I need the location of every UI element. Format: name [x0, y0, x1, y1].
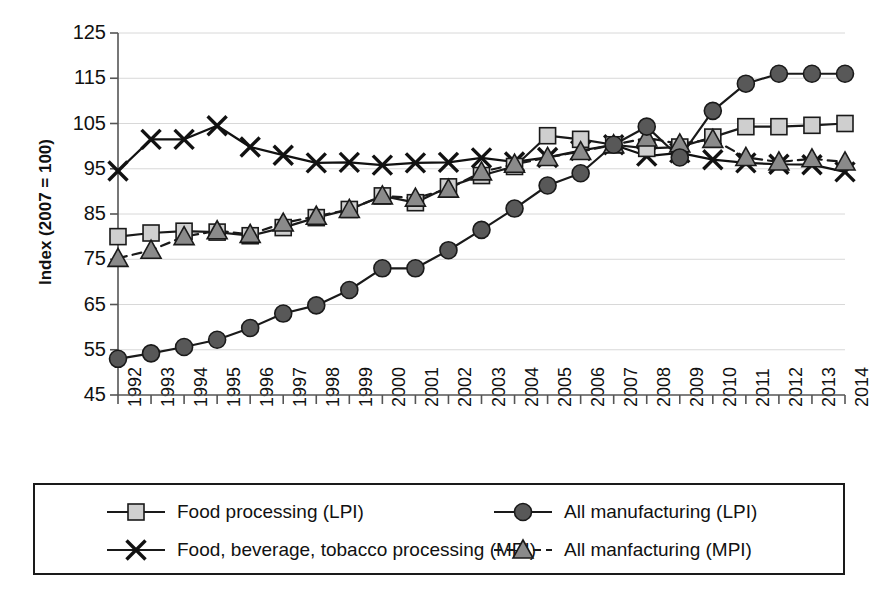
marker-square: [128, 504, 144, 520]
marker-triangle: [835, 152, 855, 170]
chart-legend: Food processing (LPI) Food, beverage, to…: [33, 483, 845, 575]
marker-circle: [704, 102, 721, 119]
marker-circle: [506, 200, 523, 217]
marker-circle: [374, 260, 391, 277]
marker-circle: [176, 339, 193, 356]
marker-circle: [110, 350, 127, 367]
marker-circle: [837, 65, 854, 82]
legend-label: Food processing (LPI): [177, 501, 364, 523]
legend-item-all-manufacturing-lpi: All manufacturing (LPI): [492, 499, 757, 525]
marker-circle: [473, 221, 490, 238]
marker-circle: [407, 260, 424, 277]
legend-sample-triangle-icon: [492, 537, 554, 563]
legend-item-all-manufacturing-mpi: All manfacturing (MPI): [492, 537, 752, 563]
legend-label: All manfacturing (MPI): [564, 539, 752, 561]
marker-circle: [308, 297, 325, 314]
series-markers-all_lpi: [110, 65, 854, 367]
marker-circle: [209, 331, 226, 348]
legend-label: All manufacturing (LPI): [564, 501, 757, 523]
legend-label: Food, beverage, tobacco processing (MPI): [177, 539, 536, 561]
legend-sample-circle-icon: [492, 499, 554, 525]
marker-circle: [572, 165, 589, 182]
marker-circle: [242, 320, 259, 337]
series-line-all_lpi: [118, 74, 845, 359]
marker-circle: [440, 242, 457, 259]
marker-square: [110, 229, 126, 245]
marker-triangle: [513, 540, 533, 558]
legend-item-food-beverage-tobacco-mpi: Food, beverage, tobacco processing (MPI): [105, 537, 536, 563]
marker-circle: [143, 345, 160, 362]
marker-circle: [671, 149, 688, 166]
marker-circle: [341, 282, 358, 299]
marker-circle: [770, 65, 787, 82]
marker-circle: [737, 75, 754, 92]
marker-circle: [539, 177, 556, 194]
marker-circle: [803, 65, 820, 82]
marker-circle: [605, 136, 622, 153]
legend-sample-cross-icon: [105, 537, 167, 563]
marker-circle: [275, 305, 292, 322]
series-markers-all_mpi: [108, 128, 855, 266]
marker-square: [837, 116, 853, 132]
marker-square: [804, 117, 820, 133]
marker-square: [771, 119, 787, 135]
marker-circle: [638, 118, 655, 135]
marker-triangle: [141, 240, 161, 258]
legend-item-food-processing-lpi: Food processing (LPI): [105, 499, 364, 525]
chart-container: Index (2007 = 100) 455565758595105115125…: [0, 0, 880, 613]
marker-square: [540, 128, 556, 144]
legend-sample-square-icon: [105, 499, 167, 525]
marker-square: [738, 119, 754, 135]
marker-circle: [515, 504, 532, 521]
